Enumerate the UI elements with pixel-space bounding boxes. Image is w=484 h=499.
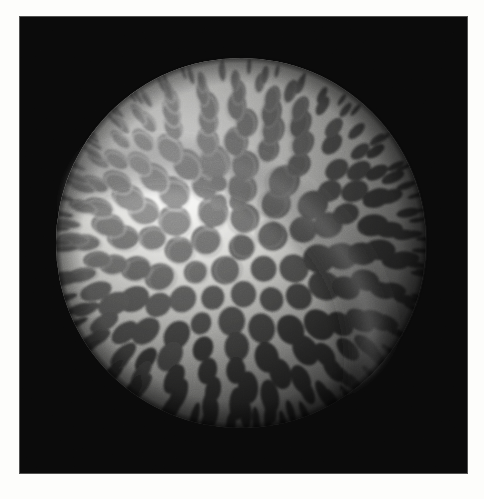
film-grain bbox=[19, 16, 468, 474]
golf-ball-image bbox=[19, 16, 468, 474]
photograph bbox=[19, 16, 468, 474]
